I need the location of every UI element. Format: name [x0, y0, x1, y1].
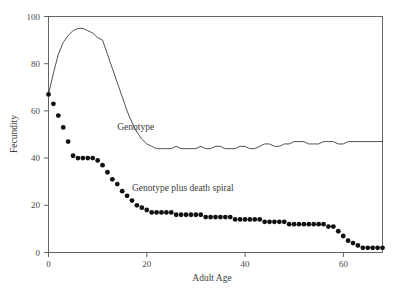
data-point — [267, 219, 272, 224]
data-point — [203, 215, 208, 220]
data-point — [110, 177, 115, 182]
y-axis-tick-labels: 0 20 40 60 80 100 — [27, 12, 41, 258]
data-point — [356, 243, 361, 248]
data-point — [120, 189, 125, 194]
data-point — [375, 245, 380, 250]
data-point — [223, 215, 228, 220]
data-point — [105, 170, 110, 175]
data-point — [184, 212, 189, 217]
genotype-plus-death-spiral-series — [46, 92, 385, 250]
data-point — [257, 217, 262, 222]
data-point — [174, 212, 179, 217]
data-point — [365, 245, 370, 250]
data-point — [164, 210, 169, 215]
data-point — [144, 208, 149, 213]
data-point — [243, 217, 248, 222]
fecundity-chart: 0 20 40 60 80 100 0 20 40 60 Adult Age F… — [0, 0, 397, 296]
data-point — [292, 222, 297, 227]
x-axis-tick-labels: 0 20 40 60 — [46, 259, 348, 269]
data-point — [66, 139, 71, 144]
data-point — [193, 212, 198, 217]
data-point — [139, 205, 144, 210]
data-point — [233, 217, 238, 222]
data-point — [238, 217, 243, 222]
data-point — [213, 215, 218, 220]
death-spiral-series-label: Genotype plus death spiral — [132, 183, 234, 193]
x-tick-label-60: 60 — [339, 259, 349, 269]
data-point — [316, 222, 321, 227]
data-point — [71, 153, 76, 158]
genotype-line-series — [49, 28, 383, 148]
data-point — [311, 222, 316, 227]
data-point — [115, 182, 120, 187]
y-tick-label-100: 100 — [27, 12, 41, 22]
y-axis-ticks — [44, 17, 49, 253]
x-tick-label-20: 20 — [142, 259, 152, 269]
data-point — [179, 212, 184, 217]
data-point — [208, 215, 213, 220]
data-point — [61, 125, 66, 130]
data-point — [154, 210, 159, 215]
data-point — [277, 219, 282, 224]
data-point — [159, 210, 164, 215]
data-point — [297, 222, 302, 227]
data-point — [247, 217, 252, 222]
data-point — [130, 198, 135, 203]
data-point — [80, 156, 85, 161]
data-point — [198, 212, 203, 217]
data-point — [135, 203, 140, 208]
data-point — [76, 156, 81, 161]
y-axis-title: Fecundity — [9, 115, 19, 153]
data-point — [51, 101, 56, 106]
x-tick-label-40: 40 — [241, 259, 251, 269]
data-point — [326, 224, 331, 229]
y-tick-label-0: 0 — [36, 248, 41, 258]
data-point — [336, 229, 341, 234]
data-point — [228, 215, 233, 220]
x-axis-ticks — [49, 253, 344, 258]
data-point — [370, 245, 375, 250]
data-point — [321, 222, 326, 227]
data-point — [189, 212, 194, 217]
data-point — [218, 215, 223, 220]
data-point — [341, 234, 346, 239]
y-tick-label-60: 60 — [31, 106, 41, 116]
data-point — [90, 156, 95, 161]
data-point — [272, 219, 277, 224]
data-point — [306, 222, 311, 227]
x-tick-label-0: 0 — [46, 259, 51, 269]
data-point — [46, 92, 51, 97]
data-point — [85, 156, 90, 161]
y-tick-label-40: 40 — [31, 153, 41, 163]
data-point — [149, 210, 154, 215]
data-point — [380, 245, 385, 250]
data-point — [100, 163, 105, 168]
data-point — [252, 217, 257, 222]
data-point — [125, 193, 130, 198]
data-point — [346, 238, 351, 243]
data-point — [262, 219, 267, 224]
data-point — [169, 210, 174, 215]
data-point — [360, 245, 365, 250]
x-axis-title: Adult Age — [192, 273, 231, 283]
data-point — [302, 222, 307, 227]
data-point — [282, 219, 287, 224]
data-point — [331, 224, 336, 229]
data-point — [95, 158, 100, 163]
data-point — [56, 113, 61, 118]
data-point — [351, 241, 356, 246]
y-tick-label-80: 80 — [31, 59, 41, 69]
data-point — [287, 222, 292, 227]
genotype-series-label: Genotype — [117, 122, 154, 132]
y-tick-label-20: 20 — [31, 200, 41, 210]
figure-container: 0 20 40 60 80 100 0 20 40 60 Adult Age F… — [0, 0, 397, 296]
